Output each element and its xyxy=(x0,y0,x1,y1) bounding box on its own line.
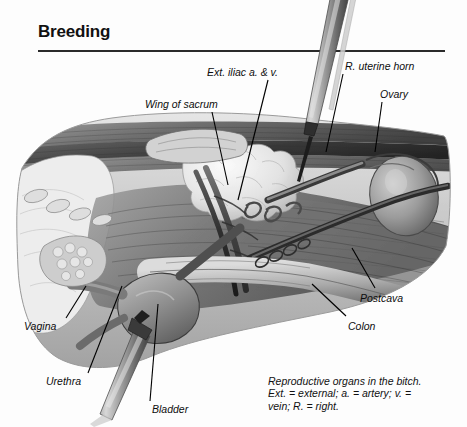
body-field xyxy=(0,100,467,400)
label-vagina: Vagina xyxy=(24,320,56,332)
label-ext-iliac: Ext. iliac a. & v. xyxy=(207,66,278,78)
breeding-figure-page: Breeding xyxy=(0,0,467,427)
urinary-bladder xyxy=(118,273,200,343)
caption-line-2: Ext. = external; a. = artery; v. = xyxy=(268,387,460,399)
label-bladder: Bladder xyxy=(152,403,188,415)
label-r-uterine-horn: R. uterine horn xyxy=(345,60,414,72)
label-urethra: Urethra xyxy=(46,375,81,387)
caption-line-3: vein; R. = right. xyxy=(268,400,460,412)
figure-caption: Reproductive organs in the bitch. Ext. =… xyxy=(268,375,460,412)
label-wing-of-sacrum: Wing of sacrum xyxy=(145,98,218,110)
label-colon: Colon xyxy=(348,320,375,332)
label-postcava: Postcava xyxy=(360,292,403,304)
caption-line-1: Reproductive organs in the bitch. xyxy=(268,375,460,387)
label-ovary: Ovary xyxy=(380,88,408,100)
